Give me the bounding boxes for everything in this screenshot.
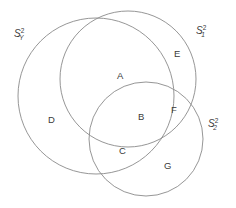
set-label-s-1-superscript: 2 <box>203 24 207 31</box>
set-label-s-2-superscript: 2 <box>215 117 219 124</box>
circle-s-2 <box>89 82 203 196</box>
circle-s-1 <box>60 11 196 147</box>
region-label-d: D <box>48 115 55 125</box>
region-label-b: B <box>138 112 144 122</box>
region-label-a: A <box>117 71 123 81</box>
set-label-s-1-subscript: 1 <box>201 31 205 38</box>
region-label-e: E <box>174 49 180 59</box>
region-label-g: G <box>164 161 171 171</box>
set-label-s-y-superscript: 2 <box>21 27 25 34</box>
region-label-c: C <box>119 146 126 156</box>
set-label-s-2-subscript: 2 <box>213 124 217 131</box>
set-label-s-1: S21 <box>196 25 210 39</box>
set-label-s-2: S22 <box>208 118 222 132</box>
set-label-s-y-subscript: Y <box>19 34 23 41</box>
set-label-s-y: S2Y <box>14 28 29 42</box>
circle-s-y <box>18 18 174 174</box>
region-label-f: F <box>171 105 177 115</box>
venn-diagram: S2Y S21 S22 A E D B F C G <box>0 0 236 208</box>
